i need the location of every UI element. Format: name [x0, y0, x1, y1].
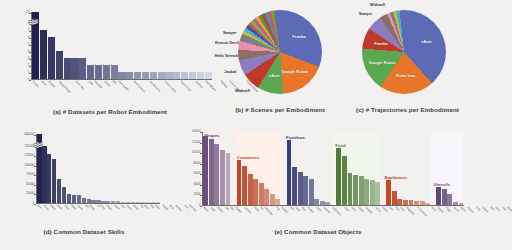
y-axis-tick-label: 50000 [26, 183, 35, 186]
x-axis-label: counter [322, 207, 330, 215]
bar [48, 37, 55, 79]
panel-c-trajectories-per-embodiment: xArmKuka iiwaGoogle RobotFrankaSawyerWid… [344, 2, 471, 122]
panel-d-bars [37, 134, 160, 203]
bar [40, 30, 47, 79]
x-axis-label: toaster [466, 207, 474, 215]
pie-slice-label: WidowX [235, 88, 250, 92]
x-axis-label: shelf [315, 207, 321, 213]
x-axis-label: pull [120, 205, 125, 210]
x-axis-label: cube [209, 207, 215, 213]
bar [242, 166, 247, 205]
y-axis-tick-mark [200, 164, 202, 165]
x-axis-label: Jackal [103, 81, 110, 88]
x-axis-label: close [63, 205, 69, 211]
y-axis-tick-mark [34, 204, 36, 205]
bar [447, 194, 452, 205]
bar [131, 202, 135, 203]
x-axis-label: bowl [252, 207, 258, 213]
x-axis-label: table [294, 207, 300, 213]
bar [353, 175, 358, 205]
bar [253, 179, 258, 205]
bar [56, 51, 63, 79]
panel-e-plot-area: blockcubeobjectballboxdrawercabinetbowlb… [202, 132, 464, 206]
bar [298, 172, 303, 205]
x-axis-label: drawer [306, 207, 314, 215]
pie-slice-label: Hello Stretch [214, 54, 238, 58]
x-axis-label: knife [494, 207, 500, 213]
bar [370, 180, 375, 205]
bar [111, 201, 115, 203]
y-axis-tick-mark [29, 66, 31, 67]
bar [226, 153, 231, 205]
bar [342, 156, 347, 205]
bar [96, 200, 100, 203]
y-axis-tick-mark [200, 153, 202, 154]
bar [62, 187, 66, 203]
panel-c-pie [362, 10, 446, 94]
y-axis-tick-mark [200, 174, 202, 175]
bar [414, 201, 419, 205]
x-axis-label: cup [501, 207, 506, 212]
panel-a-x-labels: FrankaxArmSawyerGoogle RobotKuka iiwaUR5… [32, 80, 212, 83]
bar [436, 187, 441, 206]
bar [359, 176, 364, 205]
pie-slice-label: xArm [269, 74, 279, 78]
x-axis-label: move [42, 205, 49, 212]
x-axis-label: stove [452, 207, 458, 213]
x-axis-label: oven [430, 207, 436, 213]
pie-slice-label: Franka [292, 35, 305, 39]
panel-a-bars [32, 12, 212, 79]
group-title: Furniture [286, 135, 305, 140]
x-axis-label: Franka [31, 81, 39, 89]
y-axis-tick-label: 75000 [26, 174, 35, 177]
x-axis-label: tray [275, 207, 280, 212]
x-axis-label: basket [280, 207, 288, 215]
bar [158, 72, 165, 79]
y-axis-break-tick-label: 400000 [24, 133, 34, 136]
y-axis-tick-mark [29, 38, 31, 39]
bar [214, 144, 219, 205]
x-axis-label: xArm [40, 81, 46, 87]
y-axis-tick-mark [29, 73, 31, 74]
bar [287, 140, 292, 205]
bar [150, 72, 157, 79]
x-axis-label: Sawyer [47, 81, 55, 89]
x-axis-label: corn [399, 207, 405, 213]
panel-a-caption: (a) # Datasets per Robot Embodiment [4, 108, 216, 115]
bar [309, 179, 314, 205]
bar [259, 183, 264, 205]
bar [126, 72, 133, 79]
bar [336, 148, 341, 205]
pie-slice-label: WidowX [370, 3, 385, 7]
x-axis-label: slide [99, 205, 105, 211]
bar [95, 65, 102, 79]
x-axis-label: stack [113, 205, 119, 211]
bar [42, 146, 46, 203]
pie-slice-label: Kuka iiwa [396, 74, 415, 78]
pie-slice-label: Kinova Gen3 [215, 41, 239, 45]
bar [141, 202, 145, 203]
x-axis-label: Cobotta [194, 81, 203, 90]
bar [189, 72, 196, 79]
panel-d-x-labels: pickmoveplacepushcloseopenreachputgraspl… [37, 204, 160, 207]
bar [67, 194, 71, 203]
y-axis-tick-mark [200, 143, 202, 144]
bar [142, 72, 149, 79]
panel-e-x-labels: blockcubeobjectballboxdrawercabinetbowlb… [203, 206, 464, 209]
panel-a-datasets-per-embodiment: FrankaxArmSawyerGoogle RobotKuka iiwaUR5… [4, 4, 216, 122]
x-axis-label: object [216, 207, 223, 214]
panel-b-pie [238, 10, 322, 94]
bar [52, 159, 56, 203]
x-axis-label: apple [357, 207, 364, 214]
x-axis-label: knock [161, 205, 168, 212]
bar [375, 182, 380, 205]
bar [103, 65, 110, 79]
x-axis-label: rotate [105, 205, 112, 212]
bar [111, 65, 118, 79]
x-axis-label: Hello Stretch [131, 81, 144, 94]
x-axis-label: block [202, 207, 208, 213]
bar [77, 195, 81, 203]
y-axis-tick-mark [34, 166, 36, 167]
x-axis-label: reach [76, 205, 83, 212]
